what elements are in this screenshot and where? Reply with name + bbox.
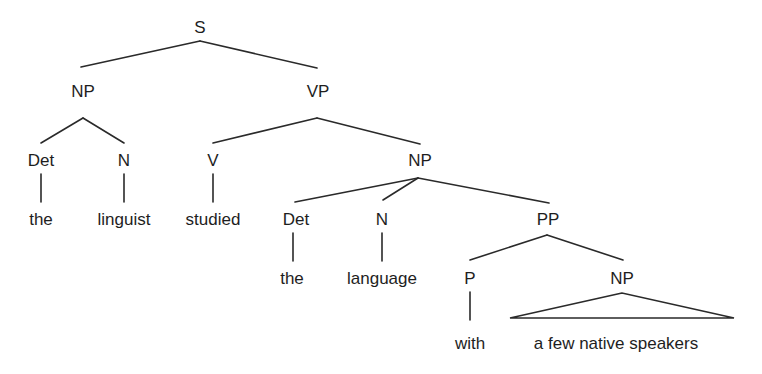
edge-vp-np <box>317 118 420 144</box>
edge-np2-pp <box>418 178 549 203</box>
edge-pp-np <box>547 235 623 260</box>
word-the-2: the <box>280 270 304 287</box>
node-v: V <box>207 152 218 169</box>
word-language: language <box>347 270 417 287</box>
word-studied: studied <box>186 211 241 228</box>
edge-s-vp <box>200 41 317 68</box>
node-det-subject: Det <box>28 152 54 169</box>
word-with: with <box>455 335 485 352</box>
node-np-pp-object: NP <box>610 270 634 287</box>
node-np-object: NP <box>408 152 432 169</box>
edge-np-det <box>41 118 83 143</box>
node-n-object: N <box>376 211 388 228</box>
edge-pp-p <box>470 235 547 260</box>
tree-edges <box>41 41 623 320</box>
word-the-1: the <box>29 211 53 228</box>
node-np-subject: NP <box>71 83 95 100</box>
tree-branches <box>0 0 762 374</box>
edge-np-n <box>83 118 124 143</box>
node-pp: PP <box>537 211 560 228</box>
node-s: S <box>194 19 205 36</box>
word-linguist: linguist <box>98 211 151 228</box>
node-vp: VP <box>307 83 330 100</box>
edge-s-np <box>81 41 200 67</box>
node-det-object: Det <box>283 211 309 228</box>
np-collapsed-triangle <box>510 293 734 318</box>
node-n-subject: N <box>118 152 130 169</box>
edge-vp-v <box>213 118 317 143</box>
node-p: P <box>464 270 475 287</box>
phrase-a-few-native-speakers: a few native speakers <box>534 335 698 352</box>
